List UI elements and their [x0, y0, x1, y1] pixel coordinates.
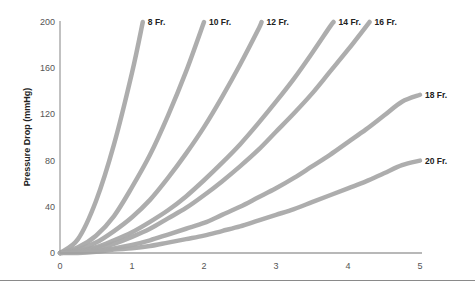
- series-label: 14 Fr.: [339, 17, 361, 27]
- series-label: 12 Fr.: [267, 17, 289, 27]
- x-tick-label: 2: [201, 261, 206, 271]
- y-tick-label: 160: [40, 63, 55, 73]
- series-label: 10 Fr.: [209, 17, 231, 27]
- x-tick-label: 1: [129, 261, 134, 271]
- x-tick-label: 3: [273, 261, 278, 271]
- y-tick-label: 200: [40, 17, 55, 27]
- y-tick-labels: 04080120160200: [40, 17, 55, 258]
- y-axis-label: Pressure Drop (mmHg): [22, 88, 32, 187]
- y-tick-label: 120: [40, 109, 55, 119]
- series-label: 18 Fr.: [425, 90, 447, 100]
- series-label: 20 Fr.: [425, 156, 447, 166]
- series-label: 8 Fr.: [148, 17, 165, 27]
- y-tick-label: 80: [45, 156, 55, 166]
- pressure-drop-chart: 04080120160200 012345 8 Fr.10 Fr.12 Fr.1…: [0, 0, 475, 286]
- x-tick-label: 5: [417, 261, 422, 271]
- y-tick-label: 40: [45, 202, 55, 212]
- bottom-divider: [0, 280, 475, 281]
- x-tick-label: 0: [57, 261, 62, 271]
- x-tick-labels: 012345: [57, 261, 422, 271]
- x-tick-label: 4: [345, 261, 350, 271]
- series-label: 16 Fr.: [375, 17, 397, 27]
- y-tick-label: 0: [50, 248, 55, 258]
- curves: [60, 22, 420, 253]
